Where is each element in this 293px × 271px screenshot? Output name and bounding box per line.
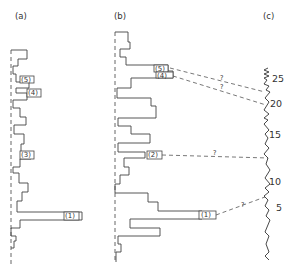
panel-b-marker-4: (4) — [156, 72, 173, 80]
svg-text:(1): (1) — [201, 211, 211, 219]
scale-tick-15: 15 — [269, 129, 281, 140]
svg-text:(2): (2) — [148, 151, 158, 159]
panel-a-marker-1: (1) — [64, 212, 79, 220]
correlation-question-2: ? — [213, 149, 216, 157]
panel-a-label: (a) — [15, 11, 27, 21]
panel-b-marker-2: (2) — [147, 151, 162, 159]
panel-a-marker-4: (4) — [27, 89, 41, 97]
scale-tick-25: 25 — [272, 73, 284, 84]
panel-a: (5) (4) (3) (1) — [11, 50, 82, 265]
panel-b: (5) (4) (2) (1) — [115, 32, 216, 262]
svg-text:(4): (4) — [157, 72, 167, 80]
correlation-lines: ? ? ? ? — [162, 68, 268, 215]
panel-c-label: (c) — [263, 11, 274, 21]
correlation-question-5: ? — [220, 74, 223, 82]
svg-text:(4): (4) — [28, 89, 38, 97]
correlation-line-5 — [170, 68, 265, 92]
panel-b-label: (b) — [114, 11, 126, 21]
svg-text:(1): (1) — [65, 212, 75, 220]
scale-tick-20: 20 — [270, 98, 282, 109]
panel-a-marker-3: (3) — [20, 151, 34, 159]
panel-a-marker-5: (5) — [20, 76, 34, 84]
svg-text:(3): (3) — [21, 151, 31, 159]
panel-b-marker-1: (1) — [199, 211, 216, 219]
svg-text:(5): (5) — [21, 76, 31, 84]
panel-c-zigzag-scale — [264, 68, 270, 260]
scale-tick-10: 10 — [269, 176, 281, 187]
panel-c: 25 20 15 10 5 — [264, 68, 284, 260]
scale-tick-5: 5 — [276, 202, 282, 213]
correlation-question-1: ? — [241, 201, 244, 209]
correlation-question-4: ? — [220, 83, 223, 91]
stratigraphic-correlation-diagram: (a) (b) (c) (5) (4) (3) (1) (5) — [0, 0, 293, 271]
